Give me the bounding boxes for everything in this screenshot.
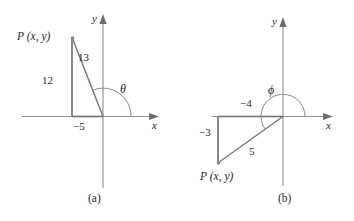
panel-b-x-axis-label: x (326, 120, 331, 131)
panel-b-hypotenuse-label: 5 (249, 146, 255, 157)
panel-b-angle-label: ϕ (268, 84, 274, 96)
figure-container: P (x, y) 12 13 −5 θ y x (a) −4 −3 5 ϕ (0, 0, 354, 221)
panel-b-graphics (0, 0, 354, 221)
panel-b-caption: (b) (278, 193, 291, 205)
panel-b-vertical-leg-label: −3 (199, 127, 211, 138)
panel-b-point-marker (217, 161, 221, 165)
panel-b-horizontal-leg-label: −4 (240, 98, 252, 109)
panel-b-point-label: P (x, y) (200, 171, 233, 183)
panel-b-y-axis (279, 17, 286, 186)
panel-b-y-axis-label: y (272, 16, 277, 27)
